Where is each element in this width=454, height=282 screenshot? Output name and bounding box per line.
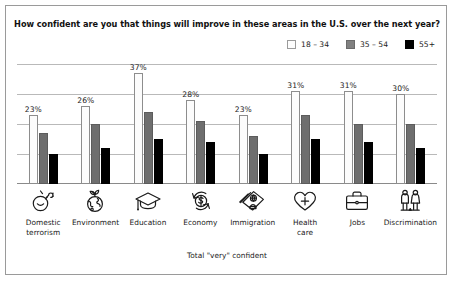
bar-55-plus: [49, 154, 58, 184]
bar-value-label: 31%: [287, 81, 304, 90]
category-label: Domestic terrorism: [26, 218, 61, 237]
category-label: Environment: [72, 218, 119, 228]
bar-group: 28%: [175, 64, 228, 184]
bar-value-label: 23%: [235, 105, 252, 114]
plot-area: 23%26%37%28%23%31%31%30%: [17, 64, 437, 184]
legend-swatch-18-34-icon: [287, 40, 296, 49]
category-label: Economy: [183, 218, 217, 228]
bar-value-label: 28%: [182, 90, 199, 99]
category-axis: Domestic terrorism Environment: [17, 187, 437, 237]
bar-35-54: [406, 124, 415, 184]
bar-55-plus: [154, 139, 163, 184]
legend-item-35-54: 35 – 54: [346, 40, 388, 49]
bar-18-34: 30%: [396, 94, 405, 184]
category-label: Jobs: [350, 218, 365, 228]
category-economy: Economy: [174, 187, 226, 237]
chart-legend: 18 – 34 35 – 54 55+: [287, 40, 435, 49]
bar-18-34: 31%: [344, 91, 353, 184]
bar-18-34: 23%: [29, 115, 38, 184]
briefcase-icon: [342, 187, 372, 215]
legend-swatch-35-54-icon: [346, 40, 355, 49]
legend-label-18-34: 18 – 34: [301, 40, 329, 49]
bar-groups: 23%26%37%28%23%31%31%30%: [17, 64, 437, 184]
legend-item-18-34: 18 – 34: [287, 40, 329, 49]
legend-label-35-54: 35 – 54: [360, 40, 388, 49]
heart-cross-icon: [290, 187, 320, 215]
bar-35-54: [301, 115, 310, 184]
globe-plant-icon: [81, 187, 111, 215]
bar-group: 31%: [280, 64, 333, 184]
passport-id-icon: [238, 187, 268, 215]
category-education: Education: [122, 187, 174, 237]
category-discrimination: Discrimination: [384, 187, 437, 237]
legend-swatch-55-plus-icon: [405, 40, 414, 49]
bar-group: 31%: [332, 64, 385, 184]
bar-18-34: 37%: [134, 73, 143, 184]
bar-35-54: [91, 124, 100, 184]
bar-55-plus: [206, 142, 215, 184]
bar-55-plus: [416, 148, 425, 184]
bar-35-54: [249, 136, 258, 184]
legend-label-55-plus: 55+: [419, 40, 435, 49]
bar-55-plus: [364, 142, 373, 184]
bar-35-54: [196, 121, 205, 184]
graduation-cap-icon: [133, 187, 163, 215]
bar-group: 37%: [122, 64, 175, 184]
bar-55-plus: [259, 154, 268, 184]
bar-value-label: 37%: [130, 63, 147, 72]
bar-group: 30%: [385, 64, 438, 184]
bar-55-plus: [101, 148, 110, 184]
category-environment: Environment: [69, 187, 121, 237]
chart-frame: How confident are you that things will i…: [5, 5, 447, 275]
category-jobs: Jobs: [331, 187, 383, 237]
footer-note: Total "very" confident: [6, 251, 448, 260]
bar-18-34: 28%: [186, 100, 195, 184]
bar-group: 23%: [17, 64, 70, 184]
bar-value-label: 26%: [77, 96, 94, 105]
bar-value-label: 31%: [340, 81, 357, 90]
bomb-icon: [28, 187, 58, 215]
bar-18-34: 26%: [81, 106, 90, 184]
bar-55-plus: [311, 139, 320, 184]
category-domestic-terrorism: Domestic terrorism: [17, 187, 69, 237]
category-immigration: Immigration: [227, 187, 279, 237]
category-label: Immigration: [230, 218, 275, 228]
bar-value-label: 30%: [392, 84, 409, 93]
dollar-recycle-icon: [185, 187, 215, 215]
legend-item-55-plus: 55+: [405, 40, 435, 49]
bar-35-54: [144, 112, 153, 184]
category-health-care: Health care: [279, 187, 331, 237]
bar-group: 23%: [227, 64, 280, 184]
bar-18-34: 23%: [239, 115, 248, 184]
bar-35-54: [39, 133, 48, 184]
category-label: Education: [130, 218, 167, 228]
bar-group: 26%: [70, 64, 123, 184]
bar-35-54: [354, 124, 363, 184]
category-label: Health care: [293, 218, 317, 237]
bar-value-label: 23%: [25, 105, 42, 114]
page-title: How confident are you that things will i…: [6, 19, 448, 29]
bar-18-34: 31%: [291, 91, 300, 184]
two-people-icon: [395, 187, 425, 215]
category-label: Discrimination: [384, 218, 437, 228]
